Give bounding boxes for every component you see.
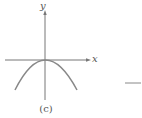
x-axis-label: x bbox=[92, 54, 98, 64]
y-axis-label: y bbox=[40, 1, 46, 11]
parabola-figure-c: y x (c) bbox=[0, 0, 142, 118]
parabola-curve bbox=[15, 60, 77, 90]
figure-canvas bbox=[0, 0, 142, 118]
figure-caption: (c) bbox=[35, 104, 57, 114]
x-axis-arrow-icon bbox=[86, 58, 91, 61]
